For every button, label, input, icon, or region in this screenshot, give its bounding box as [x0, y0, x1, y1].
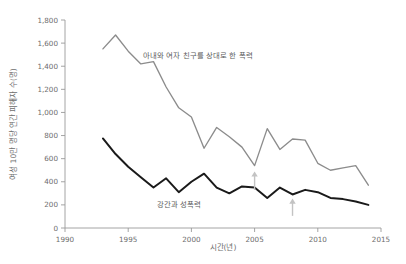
- y-tick-label: 1,000: [37, 108, 58, 117]
- x-tick-label: 2010: [309, 235, 328, 244]
- series-line-sexual-violence: [103, 138, 368, 204]
- x-axis-title: 시간(년): [210, 242, 237, 252]
- x-tick-label: 1995: [119, 235, 137, 244]
- x-tick-label: 2015: [372, 235, 390, 244]
- y-tick-label: 1,200: [37, 85, 58, 94]
- x-tick-label: 2000: [182, 235, 201, 244]
- y-tick-label: 800: [44, 131, 58, 140]
- y-axis-tick-labels: 02004006008001,0001,2001,4001,6001,800: [37, 16, 58, 233]
- chart-annotations: 아내와 여자 친구를 상대로 한 폭력강간과 성폭력: [143, 51, 296, 216]
- y-tick-label: 200: [44, 200, 58, 209]
- y-tick-label: 400: [44, 177, 58, 186]
- annotation-arrow-head: [251, 171, 257, 176]
- y-tick-label: 600: [44, 154, 58, 163]
- y-tick-label: 1,600: [37, 39, 58, 48]
- x-tick-label: 2005: [245, 235, 263, 244]
- y-axis-title: 여성 10만 명당 연간 피해자 수(명): [8, 68, 18, 180]
- y-tick-label: 0: [53, 224, 58, 233]
- annotation-arrow-head: [289, 199, 295, 204]
- x-tick-label: 1990: [56, 235, 75, 244]
- x-axis-tick-marks: [65, 228, 381, 232]
- series-inline-label: 아내와 여자 친구를 상대로 한 폭력: [143, 51, 253, 60]
- chart-container: 02004006008001,0001,2001,4001,6001,800 1…: [0, 0, 406, 264]
- y-tick-label: 1,800: [37, 16, 58, 25]
- y-tick-label: 1,400: [37, 62, 58, 71]
- series-inline-label: 강간과 성폭력: [157, 200, 201, 209]
- line-chart: 02004006008001,0001,2001,4001,6001,800 1…: [0, 0, 406, 264]
- y-axis-tick-marks: [61, 20, 65, 228]
